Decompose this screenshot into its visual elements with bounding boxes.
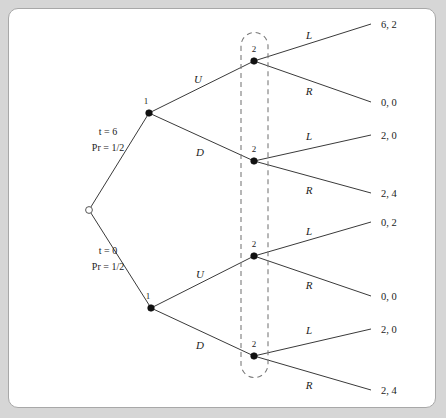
terminal-payoff-labels: 6, 2 0, 0 2, 0 2, 4 0, 2 0, 0 2, 0 2, 4 <box>381 19 398 396</box>
player1-node-lower-label: 1 <box>146 291 151 301</box>
edge-p2n1-R <box>254 61 371 102</box>
action-label-R-1: R <box>305 85 313 97</box>
action-label-D-upper: D <box>195 146 204 158</box>
player2-node-4[interactable] <box>251 353 258 360</box>
action-label-L-3: L <box>305 225 312 237</box>
payoff-label-6: 0, 0 <box>381 291 397 302</box>
player2-node-1-label: 2 <box>252 44 257 54</box>
chance-high-type-label: t = 6 <box>99 126 117 137</box>
action-label-R-3: R <box>305 279 313 291</box>
edge-nature-to-p1-lower <box>89 210 151 308</box>
payoff-label-2: 0, 0 <box>381 97 397 108</box>
edge-p2n4-L <box>254 329 371 356</box>
action-label-L-2: L <box>305 130 312 142</box>
action-label-L-4: L <box>305 324 312 336</box>
edge-p2n4-R <box>254 356 371 390</box>
action-label-U-lower: U <box>196 268 205 280</box>
action-label-L-1: L <box>305 29 312 41</box>
action-label-U-upper: U <box>194 73 203 85</box>
edge-p2n2-L <box>254 135 371 161</box>
player2-action-labels: L R L R L R L R <box>305 29 313 391</box>
payoff-label-7: 2, 0 <box>381 324 397 335</box>
player2-node-2[interactable] <box>251 158 258 165</box>
edge-p1upper-U <box>149 61 254 113</box>
player2-node-3-label: 2 <box>252 239 257 249</box>
chance-high-prob-label: Pr = 1/2 <box>92 142 124 153</box>
game-tree-svg: 1 1 2 2 2 2 t = 6 Pr = 1/2 t = 0 Pr = 1/… <box>9 9 435 407</box>
player2-node-4-label: 2 <box>252 339 257 349</box>
edge-p2n3-L <box>254 222 371 256</box>
action-label-D-lower: D <box>195 339 204 351</box>
edge-p2n1-L <box>254 24 371 61</box>
edge-p2n2-R <box>254 161 371 193</box>
chance-branch-labels: t = 6 Pr = 1/2 t = 0 Pr = 1/2 <box>92 126 124 272</box>
action-label-R-4: R <box>305 379 313 391</box>
chance-low-type-label: t = 0 <box>99 245 117 256</box>
player2-information-set-oval <box>241 33 268 378</box>
chance-low-prob-label: Pr = 1/2 <box>92 261 124 272</box>
player1-action-labels: U D U D <box>194 73 205 351</box>
player2-node-3[interactable] <box>251 253 258 260</box>
payoff-label-3: 2, 0 <box>381 130 397 141</box>
edge-p1lower-U <box>151 256 254 308</box>
player2-node-1[interactable] <box>251 58 258 65</box>
p2-terminal-edges <box>254 24 371 390</box>
player1-node-lower[interactable] <box>148 305 155 312</box>
player1-node-upper-label: 1 <box>144 96 149 106</box>
edge-p2n3-R <box>254 256 371 296</box>
nodes-group <box>86 58 258 360</box>
figure-panel: 1 1 2 2 2 2 t = 6 Pr = 1/2 t = 0 Pr = 1/… <box>8 8 436 408</box>
payoff-label-1: 6, 2 <box>381 19 397 30</box>
nature-node[interactable] <box>86 207 93 214</box>
payoff-label-5: 0, 2 <box>381 217 397 228</box>
player2-node-2-label: 2 <box>252 144 257 154</box>
player1-node-upper[interactable] <box>146 110 153 117</box>
action-label-R-2: R <box>305 184 313 196</box>
payoff-label-8: 2, 4 <box>381 385 398 396</box>
payoff-label-4: 2, 4 <box>381 188 398 199</box>
